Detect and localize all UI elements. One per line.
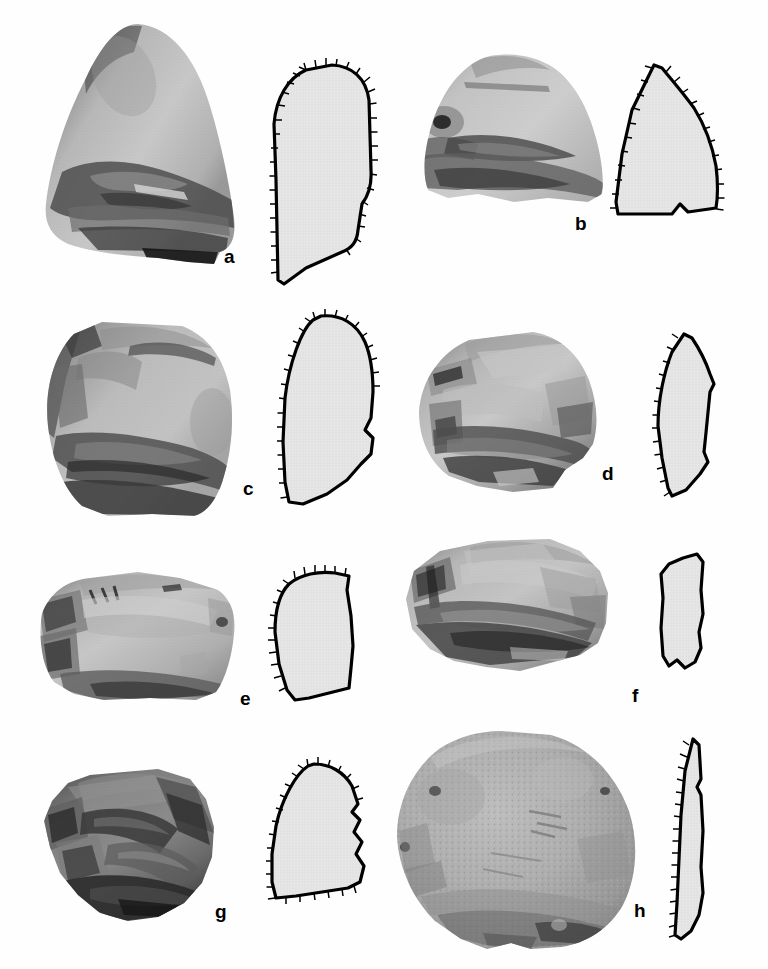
specimen-label-f: f <box>632 686 638 705</box>
specimen-label-g: g <box>215 902 227 921</box>
specimen-outline-d <box>644 330 724 502</box>
specimen-photo-a <box>38 22 240 265</box>
specimen-outline-f <box>655 550 712 675</box>
specimen-label-h: h <box>634 901 646 920</box>
specimen-outline-g <box>262 758 370 906</box>
specimen-photo-e <box>30 570 240 703</box>
specimen-label-b: b <box>575 214 587 233</box>
specimen-photo-c <box>42 318 237 518</box>
specimen-label-e: e <box>240 689 251 708</box>
specimen-photo-d <box>413 330 603 495</box>
specimen-photo-b <box>418 52 608 204</box>
specimen-outline-b <box>610 62 720 227</box>
specimen-label-d: d <box>602 464 614 483</box>
specimen-label-a: a <box>224 247 235 266</box>
specimen-outline-h <box>663 735 711 945</box>
specimen-outline-e <box>265 568 360 705</box>
specimen-label-c: c <box>243 479 254 498</box>
figure-plate: a <box>0 0 768 969</box>
specimen-outline-c <box>275 312 380 512</box>
specimen-photo-h <box>391 727 641 953</box>
specimen-photo-f <box>400 537 612 677</box>
specimen-photo-g <box>38 765 224 925</box>
specimen-outline-a <box>272 62 378 288</box>
